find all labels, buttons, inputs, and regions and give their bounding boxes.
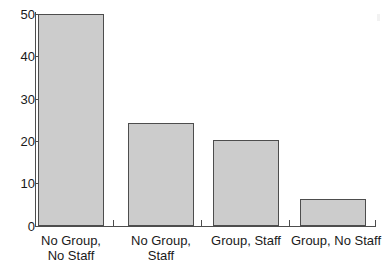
x-label-no-group-staff: No Group, Staff (116, 233, 206, 263)
x-label-no-group-no-staff: No Group, No Staff (26, 233, 116, 263)
bar-group-staff (213, 140, 279, 226)
y-tick-label-10: 10 (5, 177, 35, 190)
y-tick-label-30: 30 (5, 93, 35, 106)
scan-artifact (377, 14, 380, 21)
y-tick-label-40: 40 (5, 50, 35, 63)
x-tick-mark-2 (201, 220, 202, 226)
x-tick-mark-1 (113, 220, 114, 226)
x-label-group-staff: Group, Staff (200, 233, 292, 248)
y-tick-label-20: 20 (5, 135, 35, 148)
y-tick-label-50: 50 (5, 8, 35, 21)
x-label-group-no-staff: Group, No Staff (286, 233, 386, 248)
bar-no-group-staff (128, 123, 194, 226)
x-axis-line (35, 226, 376, 227)
x-tick-mark-4 (375, 220, 376, 226)
bar-no-group-no-staff (38, 14, 104, 226)
x-tick-mark-3 (289, 220, 290, 226)
y-tick-label-0: 0 (5, 220, 35, 233)
bar-group-no-staff (300, 199, 366, 226)
bar-chart: 0 10 20 30 40 50 No Group, No Staff No G… (0, 0, 391, 270)
y-axis-line (35, 12, 36, 227)
